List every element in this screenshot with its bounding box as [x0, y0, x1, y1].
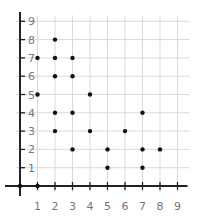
y-axis-ticks: 123456789 — [20, 15, 35, 174]
data-point — [105, 147, 109, 151]
x-tick-label: 6 — [122, 200, 129, 213]
y-tick-label: 2 — [28, 143, 35, 156]
y-tick-label: 8 — [28, 34, 35, 47]
data-point — [140, 147, 144, 151]
grid-lines — [16, 15, 190, 192]
data-point — [35, 56, 39, 60]
y-tick-label: 3 — [28, 125, 35, 138]
x-tick-label: 9 — [174, 200, 181, 213]
data-point — [70, 111, 74, 115]
y-tick-label: 1 — [28, 162, 35, 175]
y-tick-label: 7 — [28, 52, 35, 65]
x-tick-label: 3 — [69, 200, 76, 213]
x-tick-label: 7 — [139, 200, 146, 213]
data-point — [53, 37, 57, 41]
x-tick-label: 8 — [157, 200, 164, 213]
y-tick-label: 4 — [28, 107, 35, 120]
data-point — [88, 92, 92, 96]
x-tick-label: 1 — [34, 200, 41, 213]
data-point — [158, 147, 162, 151]
data-point — [53, 56, 57, 60]
data-point — [35, 92, 39, 96]
x-tick-label: 2 — [52, 200, 59, 213]
x-tick-label: 4 — [87, 200, 94, 213]
data-point — [70, 74, 74, 78]
data-point — [18, 184, 22, 188]
data-point — [123, 129, 127, 133]
data-point — [35, 184, 39, 188]
data-point — [53, 74, 57, 78]
data-point — [140, 111, 144, 115]
data-point — [105, 166, 109, 170]
data-point — [53, 129, 57, 133]
y-tick-label: 6 — [28, 70, 35, 83]
data-point — [53, 111, 57, 115]
data-point — [88, 129, 92, 133]
data-point — [140, 166, 144, 170]
x-tick-label: 5 — [104, 200, 111, 213]
data-point — [70, 147, 74, 151]
data-point — [70, 56, 74, 60]
scatter-plot: 123456789 123456789 — [0, 0, 197, 222]
y-tick-label: 5 — [28, 89, 35, 102]
y-tick-label: 9 — [28, 15, 35, 28]
